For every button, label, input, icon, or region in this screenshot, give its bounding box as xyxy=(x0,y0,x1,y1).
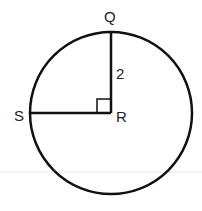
faint-band xyxy=(0,171,202,173)
label-s: S xyxy=(14,107,24,124)
label-radius: 2 xyxy=(116,65,124,82)
label-q: Q xyxy=(104,8,116,25)
diagram-canvas: Q 2 S R xyxy=(0,0,202,211)
label-r: R xyxy=(116,108,127,125)
right-angle-marker xyxy=(97,99,111,113)
